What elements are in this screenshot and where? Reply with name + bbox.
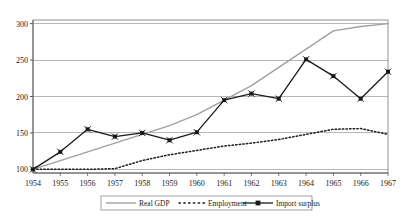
x-tick-label: 1961 — [216, 179, 232, 188]
y-tick-label: 250 — [16, 56, 28, 65]
series-import-surplus — [30, 56, 391, 172]
chart-container: 100150200250300 195419551956195719581959… — [0, 0, 401, 216]
legend-label: Employment — [208, 199, 248, 208]
x-tick-label: 1962 — [243, 179, 259, 188]
y-tick-label: 200 — [16, 93, 28, 102]
legend-label: Real GDP — [139, 199, 170, 208]
x-tick-label: 1965 — [325, 179, 341, 188]
line-chart: 100150200250300 195419551956195719581959… — [0, 0, 401, 216]
y-axis-tick-labels: 100150200250300 — [16, 20, 28, 175]
grid-lines — [30, 24, 388, 170]
chart-legend: Real GDPEmploymentImport surplus — [101, 196, 320, 210]
legend-swatch-marker — [256, 201, 261, 206]
x-axis-tick-labels: 1954195519561957195819591960196119621963… — [25, 179, 396, 188]
series-employment — [33, 129, 388, 170]
x-tick-label: 1966 — [353, 179, 369, 188]
x-tick-label: 1958 — [134, 179, 150, 188]
x-tick-label: 1955 — [52, 179, 68, 188]
x-tick-label: 1957 — [107, 179, 123, 188]
employment-line — [33, 129, 388, 170]
x-tick-label: 1964 — [298, 179, 314, 188]
y-tick-label: 300 — [16, 20, 28, 29]
y-tick-label: 150 — [16, 129, 28, 138]
x-tick-label: 1954 — [25, 179, 41, 188]
y-tick-label: 100 — [16, 165, 28, 174]
x-tick-label: 1960 — [189, 179, 205, 188]
legend-label: Import surplus — [276, 199, 320, 208]
x-tick-label: 1959 — [162, 179, 178, 188]
x-tick-label: 1963 — [271, 179, 287, 188]
x-tick-label: 1956 — [80, 179, 96, 188]
x-tick-label: 1967 — [380, 179, 396, 188]
